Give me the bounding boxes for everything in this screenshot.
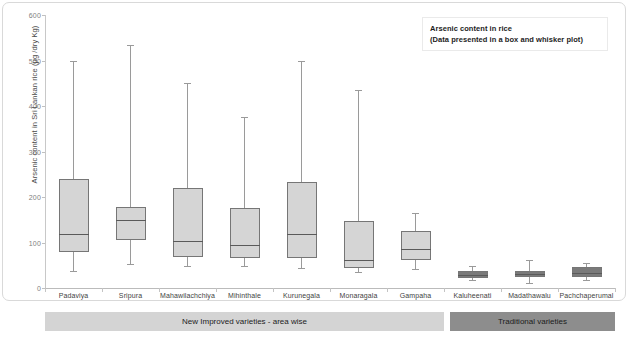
- upper-whisker: [187, 83, 188, 188]
- box-iqr: [287, 182, 317, 258]
- y-tick-mark: [42, 106, 45, 107]
- x-tick-mark: [558, 288, 559, 292]
- lower-whisker-cap: [70, 271, 77, 272]
- y-tick-mark: [42, 243, 45, 244]
- box-plot-mahawilachchiya: [173, 15, 203, 288]
- box-plot-gampaha: [401, 15, 431, 288]
- lower-whisker-cap: [526, 283, 533, 284]
- x-label-madathawalu: Madathawalu: [501, 292, 558, 299]
- box-plot-madathawalu: [515, 15, 545, 288]
- lower-whisker-cap: [298, 268, 305, 269]
- y-tick-mark: [42, 197, 45, 198]
- x-tick-mark: [102, 288, 103, 292]
- median-line: [344, 260, 374, 261]
- y-tick-mark: [42, 152, 45, 153]
- upper-whisker-cap: [583, 263, 590, 264]
- upper-whisker-cap: [469, 266, 476, 267]
- y-axis-title: Arsenic content in Sri Lankan rice (µg /…: [30, 5, 39, 205]
- box-plot-kurunegala: [287, 15, 317, 288]
- median-line: [515, 274, 545, 275]
- x-label-padaviya: Padaviya: [45, 292, 102, 299]
- box-iqr: [116, 207, 146, 240]
- box-iqr: [572, 267, 602, 277]
- lower-whisker-cap: [241, 266, 248, 267]
- median-line: [458, 275, 488, 276]
- x-label-monaragala: Monaragala: [330, 292, 387, 299]
- upper-whisker-cap: [184, 83, 191, 84]
- plot-area: [45, 15, 615, 288]
- x-tick-mark: [216, 288, 217, 292]
- x-tick-mark: [45, 288, 46, 292]
- y-tick-mark: [42, 61, 45, 62]
- median-line: [401, 249, 431, 250]
- median-line: [59, 234, 89, 235]
- x-label-pachchaperumal: Pachchaperumal: [558, 292, 615, 299]
- lower-whisker-cap: [184, 266, 191, 267]
- box-iqr: [230, 208, 260, 258]
- median-line: [230, 245, 260, 246]
- lower-whisker: [244, 258, 245, 266]
- x-label-sripura: Sripura: [102, 292, 159, 299]
- median-line: [116, 220, 146, 221]
- group-bar-traditional-varieties: Traditional varieties: [450, 312, 615, 331]
- x-label-mahawilachchiya: Mahawilachchiya: [159, 292, 216, 299]
- upper-whisker-cap: [241, 117, 248, 118]
- x-label-mihinthale: Mihinthale: [216, 292, 273, 299]
- box-plot-sripura: [116, 15, 146, 288]
- lower-whisker-cap: [583, 280, 590, 281]
- lower-whisker: [301, 258, 302, 267]
- group-bar-new-varieties: New Improved varieties - area wise: [45, 312, 444, 331]
- legend-line-2: (Data presented in a box and whisker plo…: [430, 34, 600, 45]
- lower-whisker: [130, 240, 131, 264]
- x-tick-mark: [273, 288, 274, 292]
- box-whisker-figure: 0100200300400500600 Arsenic content in S…: [0, 0, 630, 338]
- x-label-gampaha: Gampaha: [387, 292, 444, 299]
- x-tick-mark: [501, 288, 502, 292]
- legend-box: Arsenic content in rice (Data presented …: [422, 17, 608, 51]
- x-tick-mark: [159, 288, 160, 292]
- upper-whisker-cap: [70, 61, 77, 62]
- x-tick-mark: [615, 288, 616, 292]
- box-plot-pachchaperumal: [572, 15, 602, 288]
- lower-whisker-cap: [412, 269, 419, 270]
- box-plot-monaragala: [344, 15, 374, 288]
- upper-whisker: [415, 213, 416, 231]
- box-plot-kaluheenati: [458, 15, 488, 288]
- median-line: [173, 241, 203, 242]
- upper-whisker: [529, 260, 530, 271]
- median-line: [572, 273, 602, 274]
- x-tick-mark: [387, 288, 388, 292]
- lower-whisker-cap: [355, 272, 362, 273]
- upper-whisker-cap: [412, 213, 419, 214]
- upper-whisker: [358, 90, 359, 221]
- upper-whisker-cap: [298, 61, 305, 62]
- box-iqr: [401, 231, 431, 260]
- upper-whisker-cap: [355, 90, 362, 91]
- box-iqr: [59, 179, 89, 252]
- x-tick-mark: [330, 288, 331, 292]
- x-label-kurunegala: Kurunegala: [273, 292, 330, 299]
- lower-whisker: [415, 260, 416, 269]
- box-plot-mihinthale: [230, 15, 260, 288]
- y-tick-label: 0: [37, 285, 41, 292]
- upper-whisker: [301, 61, 302, 183]
- upper-whisker: [73, 61, 74, 179]
- y-tick-mark: [42, 15, 45, 16]
- y-tick-label: 100: [29, 239, 41, 246]
- lower-whisker: [73, 252, 74, 271]
- x-tick-mark: [444, 288, 445, 292]
- x-label-kaluheenati: Kaluheenati: [444, 292, 501, 299]
- box-plot-padaviya: [59, 15, 89, 288]
- upper-whisker-cap: [127, 45, 134, 46]
- upper-whisker: [130, 45, 131, 208]
- lower-whisker-cap: [469, 280, 476, 281]
- box-iqr: [173, 188, 203, 257]
- upper-whisker: [244, 117, 245, 208]
- upper-whisker-cap: [526, 260, 533, 261]
- legend-line-1: Arsenic content in rice: [430, 23, 600, 34]
- lower-whisker: [187, 257, 188, 266]
- median-line: [287, 234, 317, 235]
- lower-whisker-cap: [127, 264, 134, 265]
